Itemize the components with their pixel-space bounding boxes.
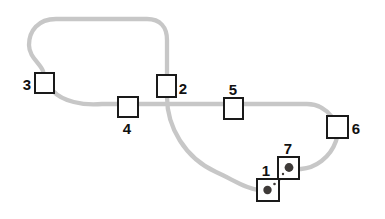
station-label-2: 2 [179, 80, 187, 97]
station-box-2 [157, 75, 176, 97]
station-label-7: 7 [284, 140, 292, 157]
station-label-1: 1 [262, 162, 270, 179]
station-box-6 [327, 116, 348, 138]
station-speck-7 [282, 173, 284, 175]
station-label-4: 4 [123, 120, 132, 137]
diagram-svg: 3245617 [0, 0, 385, 219]
station-box-4 [118, 97, 138, 117]
station-box-3 [35, 73, 54, 93]
route-diagram: 3245617 [0, 0, 385, 219]
station-dot-7 [285, 163, 294, 172]
station-label-3: 3 [23, 76, 31, 93]
station-speck-1 [273, 183, 276, 186]
station-label-6: 6 [352, 120, 360, 137]
station-box-5 [224, 98, 243, 119]
station-label-5: 5 [229, 81, 237, 98]
station-dot-1 [263, 186, 271, 194]
